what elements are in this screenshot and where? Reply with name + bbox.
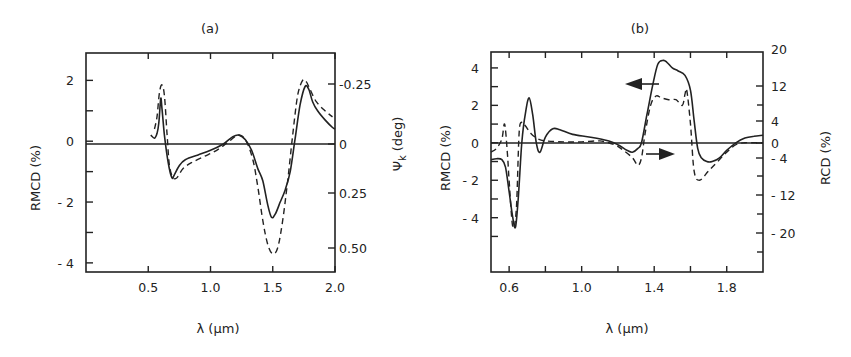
y-right-tick-label: 4 xyxy=(771,114,779,129)
panel-a-tick-labels: 0.51.01.52.020- 2- 4-0.2500.250.50 xyxy=(58,73,372,295)
panel-b-ticks xyxy=(491,52,763,272)
x-tick-label: 1.4 xyxy=(644,280,664,295)
panel-b-rmcd-curve xyxy=(491,60,763,228)
panel-b: (b) 0.61.01.41.8420- 2- 4201240- 4- 12- … xyxy=(438,21,833,336)
y-tick-label: 2 xyxy=(66,73,74,88)
panel-a-ylabel-right: Ψk(deg) xyxy=(390,117,408,172)
y-tick-label: 0 xyxy=(471,136,479,151)
x-tick-label: 0.5 xyxy=(138,280,158,295)
right-arrow-icon xyxy=(646,148,675,160)
panel-b-ylabel: RMCD (%) xyxy=(438,125,453,191)
panel-a-xlabel: λ (μm) xyxy=(197,321,240,336)
y-tick-label: - 4 xyxy=(58,256,74,271)
y-right-tick-label: 20 xyxy=(771,42,787,57)
x-tick-label: 1.0 xyxy=(572,280,592,295)
panel-b-xlabel: λ (μm) xyxy=(606,321,649,336)
panel-b-title: (b) xyxy=(631,21,649,36)
panel-a-kerr-curve xyxy=(155,79,333,253)
y-tick-label: - 2 xyxy=(463,173,479,188)
y-right-tick-label: 0.25 xyxy=(339,186,367,201)
y-right-tick-label: 12 xyxy=(771,79,787,94)
panel-a-ticks xyxy=(86,53,335,272)
y-tick-label: 0 xyxy=(66,134,74,149)
y-right-tick-label: 0.50 xyxy=(339,241,367,256)
y-right-tick-label: - 20 xyxy=(771,226,795,241)
y-right-tick-label: -0.25 xyxy=(339,77,371,92)
psi-subscript: k xyxy=(397,155,408,161)
y-right-tick-label: - 12 xyxy=(771,188,795,203)
y-tick-label: - 2 xyxy=(58,195,74,210)
panel-a-frame xyxy=(86,53,335,272)
psi-symbol: Ψ xyxy=(390,161,405,171)
svg-text:Ψk(deg): Ψk(deg) xyxy=(390,117,408,172)
panel-a-ylabel: RMCD (%) xyxy=(28,145,43,211)
y-tick-label: 4 xyxy=(471,61,479,76)
y-right-tick-label: 0 xyxy=(339,137,347,152)
y-right-tick-label: - 4 xyxy=(771,151,787,166)
panel-b-frame xyxy=(491,52,763,272)
panel-a-title: (a) xyxy=(201,21,219,36)
figure-canvas: (a) 0.51.01.52.020- 2- 4-0.2500.250.50 λ… xyxy=(0,0,851,357)
panel-a-rmcd-curve xyxy=(151,86,335,218)
x-tick-label: 1.8 xyxy=(717,280,737,295)
x-tick-label: 0.6 xyxy=(499,280,519,295)
panel-b-tick-labels: 0.61.01.41.8420- 2- 4201240- 4- 12- 20 xyxy=(463,42,796,295)
y-tick-label: 2 xyxy=(471,98,479,113)
x-tick-label: 1.0 xyxy=(201,280,221,295)
x-tick-label: 1.5 xyxy=(263,280,283,295)
psi-unit: (deg) xyxy=(390,117,405,152)
panel-b-ylabel-right: RCD (%) xyxy=(818,131,833,185)
y-tick-label: - 4 xyxy=(463,211,479,226)
panel-a: (a) 0.51.01.52.020- 2- 4-0.2500.250.50 λ… xyxy=(28,21,408,336)
x-tick-label: 2.0 xyxy=(325,280,345,295)
y-right-tick-label: 0 xyxy=(771,136,779,151)
